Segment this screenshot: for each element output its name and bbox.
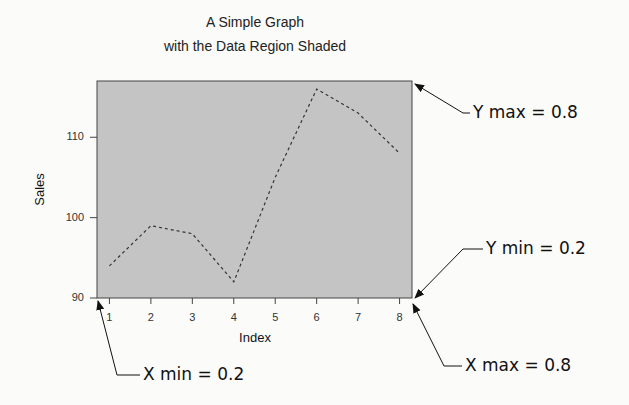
y-axis-label: Sales [32,165,47,215]
x-tick-label: 4 [224,311,244,323]
x-axis-label: Index [225,330,285,345]
y-tick-label: 100 [44,211,84,223]
ymin-annotation: Y min = 0.2 [486,238,586,258]
plot-area [0,0,629,405]
xmax-annotation: X max = 0.8 [465,355,571,375]
x-tick-label: 5 [265,311,285,323]
annotated-chart-figure: A Simple Graph with the Data Region Shad… [0,0,629,405]
shaded-data-region [97,81,412,298]
ymax-arrow [415,84,470,113]
xmax-arrow [413,304,462,366]
y-tick-label: 110 [44,130,84,142]
y-axis-ticks [90,137,97,298]
x-tick-label: 2 [141,311,161,323]
x-tick-label: 1 [99,311,119,323]
x-tick-label: 7 [348,311,368,323]
x-axis-ticks [109,298,399,304]
y-tick-label: 90 [44,291,84,303]
x-tick-label: 8 [390,311,410,323]
xmin-annotation: X min = 0.2 [143,364,244,384]
x-tick-label: 6 [307,311,327,323]
ymax-annotation: Y max = 0.8 [473,102,578,122]
ymin-arrow [415,249,483,298]
x-tick-label: 3 [182,311,202,323]
